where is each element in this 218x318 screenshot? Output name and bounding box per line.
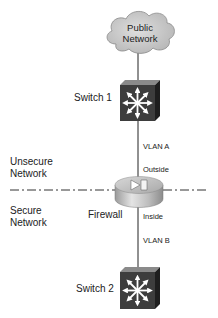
vlan-a-label: VLAN A [143,142,169,151]
switch2-icon [120,267,160,309]
secure-zone-label: Secure Network [10,205,47,229]
unsecure-zone-label: Unsecure Network [10,156,53,180]
inside-label: Inside [143,212,163,221]
outside-label: Outside [143,165,169,174]
secure-label-line2: Network [10,217,47,229]
vlan-b-label: VLAN B [143,236,170,245]
cloud-label: Public Network [112,22,168,44]
firewall-label: Firewall [88,209,122,221]
unsecure-label-line1: Unsecure [10,156,53,168]
switch1-label: Switch 1 [74,92,112,104]
switch1-icon [120,80,160,121]
unsecure-label-line2: Network [10,168,53,180]
secure-label-line1: Secure [10,205,47,217]
switch2-label: Switch 2 [76,283,114,295]
cloud-label-line2: Network [112,33,168,44]
firewall-icon [115,177,163,208]
cloud-label-line1: Public [112,22,168,33]
